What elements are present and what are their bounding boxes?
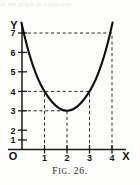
x-axis-label: X	[122, 150, 130, 162]
caption-small: IG	[58, 167, 67, 176]
y-tick-label-4: 4	[10, 87, 15, 97]
y-tick-label-1: 1	[10, 135, 15, 145]
parabola-plot: Y X O 7 6 5 4 3 2 1 1 2 3 4	[0, 0, 140, 165]
figure-graph: Y X O 7 6 5 4 3 2 1 1 2 3 4	[0, 0, 140, 165]
dashed-guide-lines	[22, 33, 112, 149]
y-tick-labels: 7 6 5 4 3 2 1	[10, 28, 15, 145]
y-tick-label-2: 2	[10, 126, 15, 136]
y-tick-label-5: 5	[10, 67, 15, 77]
y-tick-label-6: 6	[10, 48, 15, 58]
x-tick-label-3: 3	[87, 153, 92, 163]
y-tick-label-3: 3	[10, 106, 15, 116]
x-tick-labels: 1 2 3 4	[42, 153, 115, 163]
origin-label: O	[9, 150, 18, 162]
y-tick-label-7: 7	[10, 28, 15, 38]
figure-caption: FIG. 26.	[0, 166, 140, 176]
caption-number: . 26.	[68, 166, 88, 176]
x-tick-label-4: 4	[109, 153, 114, 163]
x-tick-label-1: 1	[42, 153, 47, 163]
parabola-curve	[21, 23, 112, 111]
x-tick-label-2: 2	[64, 153, 69, 163]
